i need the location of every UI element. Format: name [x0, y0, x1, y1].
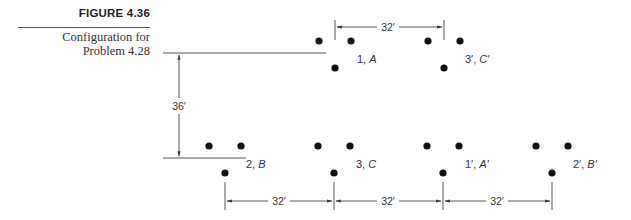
bottom-spacing-label-2: 32′: [381, 195, 395, 207]
bottom-spacing-label-1: 32′: [272, 195, 286, 207]
group-label-1A: 1, A: [357, 53, 377, 65]
top-spacing-label: 32′: [381, 21, 395, 33]
conductor-group-3pC: 3′, C′: [424, 37, 490, 71]
group-label-2pB: 2′, B′: [573, 158, 598, 170]
vertical-spacing-label: 36′: [172, 100, 186, 112]
group-label-2B: 2, B: [246, 158, 266, 170]
conductor-group-1pA: 1′, A′: [423, 142, 489, 176]
top-horizontal-dimension: 32′: [335, 20, 444, 40]
bottom-spacing-label-3: 32′: [490, 195, 504, 207]
group-label-3C: 3, C: [356, 158, 376, 170]
conductor-group-2pB: 2′, B′: [532, 142, 597, 176]
vertical-dimension: 36′: [172, 55, 186, 156]
group-label-3pC: 3′, C′: [465, 53, 490, 65]
conductor-group-2B: 2, B: [205, 142, 265, 176]
conductor-group-3C: 3, C: [314, 142, 376, 176]
bottom-horizontal-dimensions: 32′ 32′ 32′: [225, 182, 552, 210]
conductor-configuration-diagram: 36′ 32′ 1, A 3′, C′ 2, B 3, C 1′,: [0, 0, 631, 220]
group-label-1pA: 1′, A′: [465, 158, 490, 170]
conductor-group-1A: 1, A: [315, 37, 376, 71]
